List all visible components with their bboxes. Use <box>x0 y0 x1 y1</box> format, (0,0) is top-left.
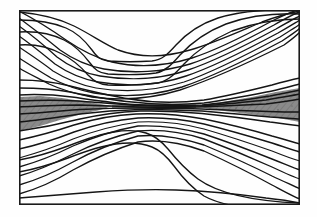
contour-figure <box>0 0 317 217</box>
contour-plot-svg <box>0 0 317 217</box>
